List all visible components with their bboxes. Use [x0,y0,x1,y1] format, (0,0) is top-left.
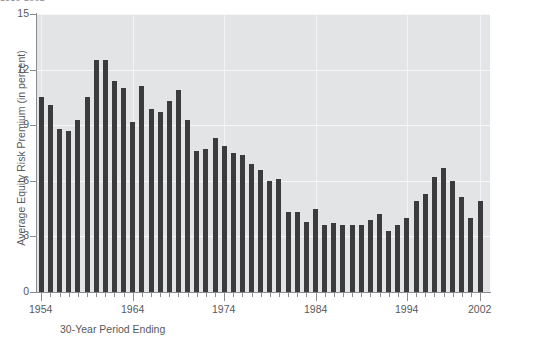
y-axis-tick-label: 15 [5,8,29,18]
bar [222,146,227,292]
x-axis-tick [361,293,362,297]
bar [194,151,199,292]
x-axis-tick [352,293,353,297]
x-axis-tick [444,293,445,297]
x-axis-tick [343,293,344,297]
bar [340,225,345,292]
x-axis-tick [334,293,335,297]
x-axis-title: 30-Year Period Ending [60,323,165,335]
y-axis-line [36,13,37,293]
x-axis-tick [453,293,454,297]
bar [450,181,455,292]
x-axis-tick [87,293,88,297]
x-axis-tick-major [316,293,317,301]
x-axis-tick-major [480,293,481,301]
bar [57,129,62,292]
bar [121,88,126,292]
x-axis-tick-label: 2002 [468,303,491,315]
x-axis-tick [233,293,234,297]
x-axis-tick [389,293,390,297]
bar [359,225,364,292]
y-axis-title: Average Equity Risk Premium (in percent) [15,33,27,263]
x-axis-tick [178,293,179,297]
y-axis-tick [30,236,36,237]
bar [304,222,309,292]
x-axis-tick [434,293,435,297]
x-axis-tick [380,293,381,297]
x-axis-tick [288,293,289,297]
bar [478,201,483,292]
bar [176,90,181,292]
bar [459,197,464,292]
x-axis-tick [169,293,170,297]
bar [313,209,318,292]
x-axis-tick [297,293,298,297]
x-axis-tick [242,293,243,297]
x-axis-tick [471,293,472,297]
x-axis-tick [188,293,189,297]
x-axis-tick-major [407,293,408,301]
x-axis-tick [69,293,70,297]
bar [386,231,391,292]
bar [295,212,300,292]
x-axis-tick [151,293,152,297]
x-axis-tick-label: 1984 [304,303,327,315]
x-axis-tick [325,293,326,297]
bar [231,153,236,292]
bar [94,60,99,292]
x-axis-tick [60,293,61,297]
bar [414,201,419,292]
x-axis-tick [124,293,125,297]
bar [276,179,281,292]
x-axis-tick-label: 1974 [212,303,235,315]
x-axis-tick [398,293,399,297]
y-axis-tick [30,70,36,71]
x-axis-tick-major [41,293,42,301]
bar [75,120,80,292]
x-axis-tick [279,293,280,297]
bar [185,120,190,292]
x-axis-tick [96,293,97,297]
y-axis-tick [30,181,36,182]
x-axis-tick [50,293,51,297]
x-axis-tick-major [224,293,225,301]
bar [286,212,291,292]
bar [158,112,163,292]
x-axis-tick [206,293,207,297]
bar [322,225,327,292]
y-axis-tick [30,125,36,126]
bar [112,81,117,292]
bar [240,155,245,292]
x-axis-tick [261,293,262,297]
bar [258,170,263,292]
bar [48,105,53,292]
y-axis-tick [30,292,36,293]
x-axis-tick [197,293,198,297]
bar [432,177,437,292]
x-axis-tick [215,293,216,297]
bar [130,122,135,293]
bar [395,225,400,292]
x-axis-tick [114,293,115,297]
x-axis-tick-label: 1954 [29,303,52,315]
bar [203,149,208,292]
x-axis-tick-label: 1994 [395,303,418,315]
bar [441,168,446,292]
bar [149,109,154,292]
x-axis-tick [306,293,307,297]
bar [423,194,428,292]
x-axis-tick [142,293,143,297]
x-axis-tick [416,293,417,297]
bar [85,97,90,292]
x-axis-tick [78,293,79,297]
bar [331,223,336,292]
x-axis-tick [252,293,253,297]
x-axis-tick [105,293,106,297]
bar [167,101,172,292]
bar [139,86,144,292]
x-axis-tick [425,293,426,297]
chart-figure: 1950-2002 03691215 195419641974198419942… [0,0,533,346]
x-axis-tick-major [133,293,134,301]
x-axis-tick-label: 1964 [121,303,144,315]
bar [66,131,71,292]
